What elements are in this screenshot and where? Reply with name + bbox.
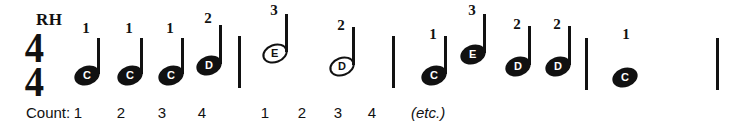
count-label: Count: bbox=[26, 104, 70, 121]
fingering-number: 3 bbox=[464, 2, 480, 19]
note-stem bbox=[568, 26, 571, 65]
music-notation-figure: RH 4 4 C1C1C1D2E3D2C1E3D2D2C1 Count:1234… bbox=[0, 0, 747, 131]
note-letter: D bbox=[338, 61, 346, 72]
note-stem bbox=[352, 27, 355, 65]
note-letter: C bbox=[430, 70, 438, 81]
note-letter: C bbox=[167, 70, 175, 81]
fingering-number: 2 bbox=[200, 10, 216, 27]
note-stem bbox=[285, 14, 288, 52]
count-beat: 3 bbox=[154, 104, 170, 121]
note-letter: D bbox=[554, 61, 562, 72]
note-stem bbox=[181, 38, 184, 74]
barline bbox=[392, 36, 395, 88]
fingering-number: 1 bbox=[78, 20, 94, 37]
count-beat: 1 bbox=[70, 104, 86, 121]
count-beat: 4 bbox=[364, 104, 380, 121]
note-stem bbox=[97, 38, 100, 74]
note-stem bbox=[140, 38, 143, 74]
note-letter: E bbox=[469, 49, 476, 60]
fingering-number: 2 bbox=[509, 16, 525, 33]
note-letter: C bbox=[126, 70, 134, 81]
notehead: C bbox=[610, 64, 641, 91]
note-stem bbox=[528, 26, 531, 65]
note-stem bbox=[444, 36, 447, 74]
note-letter: D bbox=[205, 60, 213, 71]
time-signature-denominator: 4 bbox=[25, 66, 44, 100]
fingering-number: 2 bbox=[333, 17, 349, 34]
count-beat: 4 bbox=[194, 104, 210, 121]
count-etc-label: (etc.) bbox=[411, 104, 445, 121]
note-letter: E bbox=[271, 48, 278, 59]
note-letter: C bbox=[83, 70, 91, 81]
barline bbox=[716, 38, 719, 90]
fingering-number: 1 bbox=[162, 20, 178, 37]
note-letter: D bbox=[514, 61, 522, 72]
fingering-number: 3 bbox=[266, 2, 282, 19]
fingering-number: 1 bbox=[121, 20, 137, 37]
barline bbox=[238, 36, 241, 88]
time-signature: 4 4 bbox=[25, 32, 44, 99]
note-stem bbox=[483, 14, 486, 53]
note-stem bbox=[219, 25, 222, 64]
fingering-number: 1 bbox=[618, 26, 634, 43]
count-beat: 3 bbox=[330, 104, 346, 121]
fingering-number: 2 bbox=[549, 16, 565, 33]
fingering-number: 1 bbox=[425, 26, 441, 43]
note-letter: C bbox=[621, 72, 629, 83]
count-beat: 1 bbox=[257, 104, 273, 121]
barline bbox=[585, 38, 588, 90]
count-beat: 2 bbox=[294, 104, 310, 121]
count-beat: 2 bbox=[113, 104, 129, 121]
